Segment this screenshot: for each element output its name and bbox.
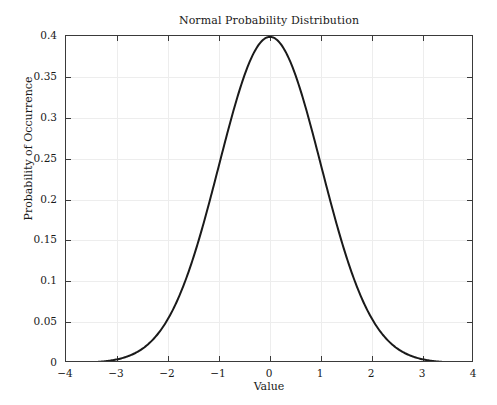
x-tick-label: 2 [368,367,375,379]
chart-title: Normal Probability Distribution [65,14,473,27]
plot-area [65,35,473,362]
x-tick-label: 0 [266,367,273,379]
y-axis-label: Probability of Occurrence [22,59,35,239]
x-tick-label: 4 [470,367,477,379]
x-tick-label: 1 [317,367,324,379]
y-tick-label: 0.1 [0,274,57,286]
x-tick-label: 3 [419,367,426,379]
x-tick-label: −3 [108,367,123,379]
chart-figure: Normal Probability Distribution −4−3−2−1… [0,0,497,405]
x-tick-label: −2 [159,367,174,379]
y-tick-label: 0.05 [0,315,57,327]
x-tick-label: −4 [57,367,72,379]
x-axis-label: Value [65,380,473,393]
normal-distribution-curve [66,36,473,362]
y-tick-label: 0 [0,356,57,368]
x-tick-label: −1 [210,367,225,379]
y-tick-label: 0.4 [0,29,57,41]
